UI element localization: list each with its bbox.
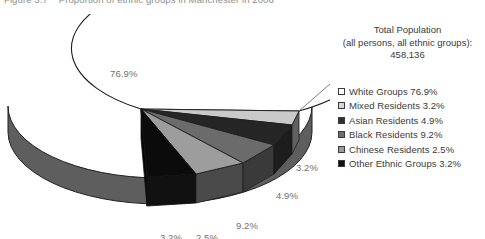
- figure-title: Proportion of ethnic groups in Mancheste…: [59, 0, 274, 5]
- total-population-heading: Total Population: [330, 24, 485, 37]
- chart-legend: White Groups 76.9% Mixed Residents 3.2% …: [338, 84, 485, 171]
- legend-swatch-icon: [338, 88, 345, 95]
- legend-label: Mixed Residents 3.2%: [349, 100, 445, 111]
- legend-swatch-icon: [338, 160, 345, 167]
- slice-label-other-ethnic-groups: 3.2%: [160, 232, 182, 239]
- total-population-block: Total Population (all persons, all ethni…: [330, 24, 485, 62]
- legend-item-other-ethnic-groups: Other Ethnic Groups 3.2%: [338, 157, 485, 171]
- slice-label-black-residents: 9.2%: [236, 220, 258, 231]
- legend-item-white-groups: White Groups 76.9%: [338, 84, 485, 98]
- legend-label: Black Residents 9.2%: [349, 129, 442, 140]
- legend-label: White Groups 76.9%: [349, 86, 438, 97]
- total-population-qualifier: (all persons, all ethnic groups):: [330, 37, 485, 50]
- legend-item-asian-residents: Asian Residents 4.9%: [338, 113, 485, 127]
- slice-label-asian-residents: 4.9%: [276, 190, 298, 201]
- legend-swatch-icon: [338, 146, 345, 153]
- slice-white-groups: [71, 14, 330, 111]
- legend-label: Other Ethnic Groups 3.2%: [349, 158, 461, 169]
- legend-swatch-icon: [338, 131, 345, 138]
- legend-item-mixed-residents: Mixed Residents 3.2%: [338, 99, 485, 113]
- slice-label-chinese-residents: 2.5%: [196, 232, 218, 239]
- legend-swatch-icon: [338, 117, 345, 124]
- figure-caption: Figure 3.7Proportion of ethnic groups in…: [4, 0, 274, 5]
- legend-label: Chinese Residents 2.5%: [349, 144, 454, 155]
- legend-label: Asian Residents 4.9%: [349, 115, 443, 126]
- total-population-value: 458,136: [330, 49, 485, 62]
- legend-item-chinese-residents: Chinese Residents 2.5%: [338, 142, 485, 156]
- slice-label-white-groups: 76.9%: [110, 68, 137, 79]
- pie-chart: 76.9% 3.2% 4.9% 9.2% 2.5% 3.2%: [0, 14, 330, 214]
- chart-side-panel: Total Population (all persons, all ethni…: [330, 0, 485, 239]
- legend-item-black-residents: Black Residents 9.2%: [338, 128, 485, 142]
- figure-number: Figure 3.7: [4, 0, 48, 5]
- wall-other-group-front: [147, 174, 196, 206]
- slice-label-mixed-residents: 3.2%: [296, 162, 318, 173]
- pie-chart-graphic: [0, 14, 330, 214]
- legend-swatch-icon: [338, 102, 345, 109]
